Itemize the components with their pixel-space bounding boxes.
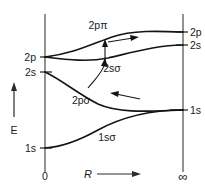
curve-label-2p-sigma: 2pσ <box>72 94 91 106</box>
energy-axis-label: E <box>10 124 17 136</box>
sa-level-label-2s: 2s <box>190 39 201 51</box>
ua-level-label-2p: 2p <box>24 51 36 63</box>
curve-label-2p-pi: 2pπ <box>89 19 108 31</box>
curve-label-2s-sigma: 2sσ <box>103 62 121 74</box>
sa-level-label-1s: 1s <box>190 104 201 116</box>
distance-axis-arrow <box>97 171 141 177</box>
ua-level-label-2s: 2s <box>25 66 36 78</box>
x-end-label: ∞ <box>178 169 187 184</box>
x-origin-label: 0 <box>42 170 48 182</box>
curve-label-1s-sigma: 1sσ <box>98 131 116 143</box>
distance-axis-label: R <box>84 168 92 180</box>
curve-2p-sigma <box>45 72 183 111</box>
ua-level-label-1s: 1s <box>25 142 36 154</box>
energy-axis-arrow <box>11 82 17 117</box>
arrow-2p-sigma-left <box>110 91 140 99</box>
curve-2p-pi <box>45 31 183 57</box>
sa-level-label-2p: 2p <box>190 26 202 38</box>
mo-correlation-diagram: 2p 2s 1s 2p 2s 1s 2pπ 2sσ 2pσ 1sσ E R 0 … <box>0 0 205 190</box>
diagram-canvas: 2p 2s 1s 2p 2s 1s 2pπ 2sσ 2pσ 1sσ E R 0 … <box>0 0 205 190</box>
